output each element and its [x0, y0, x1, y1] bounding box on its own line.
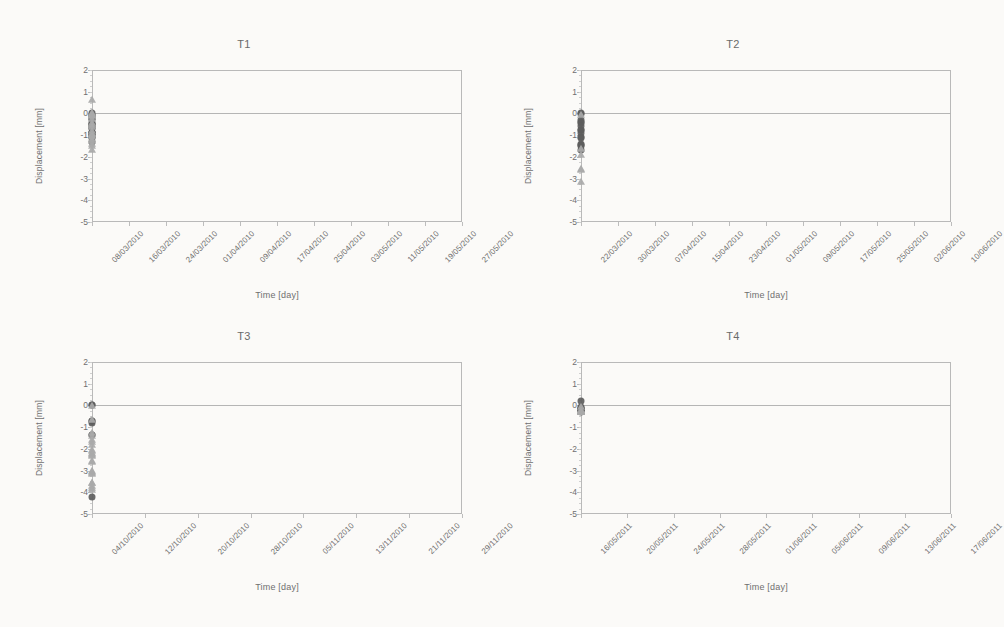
- y-minor-tickmark: [579, 103, 581, 104]
- x-tick-label: 23/04/2010: [747, 229, 782, 264]
- x-tick-label: 17/06/2011: [969, 521, 1004, 556]
- y-tick-label: 2: [83, 357, 88, 367]
- y-minor-tickmark: [579, 471, 581, 472]
- data-point-triangle: [88, 446, 96, 453]
- y-minor-tickmark: [90, 162, 92, 163]
- x-tickmark: [145, 514, 146, 518]
- data-point-triangle: [577, 151, 585, 158]
- y-tick-label: -2: [569, 444, 577, 454]
- x-tickmark: [766, 514, 767, 518]
- y-minor-tickmark: [90, 509, 92, 510]
- x-tickmark: [655, 222, 656, 226]
- y-tick-label: -1: [80, 130, 88, 140]
- x-tick-label: 28/10/2010: [269, 521, 304, 556]
- x-tick-label: 28/05/2011: [738, 521, 773, 556]
- data-point-triangle: [577, 166, 585, 173]
- y-minor-tickmark: [579, 97, 581, 98]
- x-tick-label: 11/05/2010: [406, 229, 441, 264]
- x-tick-label: 13/06/2011: [923, 521, 958, 556]
- y-minor-tickmark: [579, 70, 581, 71]
- y-minor-tickmark: [579, 438, 581, 439]
- y-tick-label: -1: [80, 422, 88, 432]
- data-point-triangle: [88, 141, 96, 148]
- y-axis-label-t2: Displacement [mm]: [523, 70, 533, 222]
- y-minor-tickmark: [90, 362, 92, 363]
- y-tick-label: -5: [569, 217, 577, 227]
- x-axis-label-t3: Time [day]: [92, 582, 462, 592]
- plot-frame-t2: [581, 70, 951, 222]
- x-tick-label: 05/06/2011: [830, 521, 865, 556]
- panel-t2: T2210-1-2-3-4-522/03/201030/03/201007/04…: [489, 38, 977, 328]
- x-tickmark: [812, 514, 813, 518]
- x-tickmark: [198, 514, 199, 518]
- x-tickmark: [409, 514, 410, 518]
- x-tick-label: 24/03/2010: [184, 229, 219, 264]
- x-tickmark: [251, 514, 252, 518]
- y-minor-tickmark: [90, 195, 92, 196]
- y-minor-tickmark: [579, 487, 581, 488]
- x-tick-label: 24/05/2011: [691, 521, 726, 556]
- x-tick-label: 17/05/2010: [858, 229, 893, 264]
- y-minor-tickmark: [579, 373, 581, 374]
- zero-gridline-t3: [92, 405, 462, 406]
- data-point-triangle: [88, 111, 96, 118]
- y-minor-tickmark: [90, 217, 92, 218]
- y-minor-tickmark: [579, 211, 581, 212]
- y-axis-label-t1: Displacement [mm]: [34, 70, 44, 222]
- x-tick-label: 16/05/2011: [599, 521, 634, 556]
- x-tick-label: 20/05/2011: [645, 521, 680, 556]
- y-minor-tickmark: [579, 384, 581, 385]
- data-point-triangle: [88, 96, 96, 103]
- y-minor-tickmark: [579, 362, 581, 363]
- x-axis-label-t1: Time [day]: [92, 290, 462, 300]
- y-minor-tickmark: [90, 70, 92, 71]
- panel-title-t2: T2: [489, 38, 977, 50]
- y-tick-label: 2: [83, 65, 88, 75]
- y-minor-tickmark: [90, 157, 92, 158]
- y-tick-label: -3: [80, 174, 88, 184]
- y-tick-label: -3: [569, 466, 577, 476]
- x-tickmark: [692, 222, 693, 226]
- x-tickmark: [627, 514, 628, 518]
- y-minor-tickmark: [579, 433, 581, 434]
- y-minor-tickmark: [90, 81, 92, 82]
- y-minor-tickmark: [579, 449, 581, 450]
- y-minor-tickmark: [90, 373, 92, 374]
- x-axis-label-t2: Time [day]: [581, 290, 951, 300]
- y-tick-label: -2: [80, 444, 88, 454]
- x-tickmark: [277, 222, 278, 226]
- plot-frame-t3: [92, 362, 462, 514]
- y-tick-label: -1: [569, 130, 577, 140]
- y-tick-label: 1: [572, 379, 577, 389]
- data-point-triangle: [577, 178, 585, 185]
- x-tickmark: [203, 222, 204, 226]
- y-tick-label: -3: [569, 174, 577, 184]
- y-minor-tickmark: [90, 184, 92, 185]
- panel-title-t4: T4: [489, 330, 977, 342]
- x-tickmark: [425, 222, 426, 226]
- zero-gridline-t1: [92, 113, 462, 114]
- data-point-circle: [89, 493, 96, 500]
- x-tickmark: [951, 514, 952, 518]
- y-minor-tickmark: [90, 367, 92, 368]
- zero-gridline-t2: [581, 113, 951, 114]
- x-tickmark: [840, 222, 841, 226]
- y-minor-tickmark: [90, 211, 92, 212]
- y-tick-label: -4: [569, 195, 577, 205]
- x-tick-label: 02/06/2010: [932, 229, 967, 264]
- y-minor-tickmark: [579, 460, 581, 461]
- y-axis-label-t3: Displacement [mm]: [34, 362, 44, 514]
- plot-area-t2: 210-1-2-3-4-522/03/201030/03/201007/04/2…: [581, 70, 951, 222]
- x-tickmark: [388, 222, 389, 226]
- y-minor-tickmark: [90, 389, 92, 390]
- x-tick-label: 08/03/2010: [110, 229, 145, 264]
- x-tickmark: [914, 222, 915, 226]
- x-tick-label: 07/04/2010: [673, 229, 708, 264]
- y-tick-label: -5: [569, 509, 577, 519]
- x-tick-label: 15/04/2010: [710, 229, 745, 264]
- x-tickmark: [92, 222, 93, 226]
- data-point-triangle: [88, 436, 96, 443]
- x-tickmark: [462, 222, 463, 226]
- y-minor-tickmark: [579, 509, 581, 510]
